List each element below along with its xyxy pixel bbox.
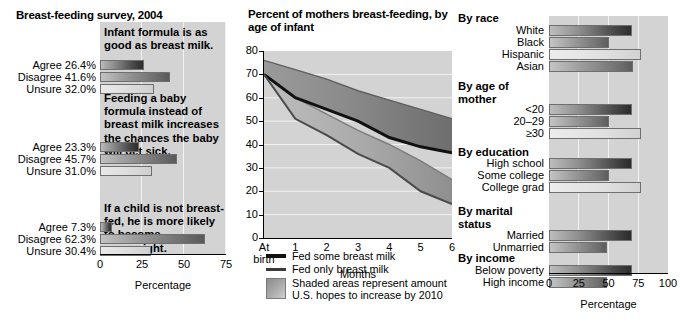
demographic-bar <box>549 170 609 181</box>
demographic-group-title: By income <box>458 252 544 265</box>
x-tick-label: 0 <box>534 277 564 289</box>
left-x-axis-line <box>100 254 226 255</box>
survey-row-label: Disagree 45.7% <box>0 153 96 165</box>
demographic-group-title: By maritalstatus <box>458 205 544 230</box>
y-tick-label: 20 <box>232 184 258 196</box>
y-tick-label: 70 <box>232 67 258 79</box>
demographic-bar <box>549 116 609 127</box>
center-panel-title: Percent of mothers breast-feeding, by ag… <box>248 8 456 34</box>
y-tick-label: 30 <box>232 161 258 173</box>
infographic-root: Breast-feeding survey, 2004 Infant formu… <box>0 0 680 331</box>
survey-bar <box>100 84 154 94</box>
y-tick-label: 80 <box>232 44 258 56</box>
demographic-row-label: High income <box>458 276 544 288</box>
demographic-row-label: <20 <box>458 103 544 115</box>
survey-statement: Infant formula is as good as breast milk… <box>104 26 226 52</box>
survey-row-label: Agree 26.4% <box>0 59 96 71</box>
y-tick-mark <box>259 238 263 239</box>
demographic-bar <box>549 37 609 48</box>
legend-label: Shaded areas represent amount U.S. hopes… <box>286 277 456 302</box>
survey-row-label: Unsure 30.4% <box>0 245 96 257</box>
y-tick-mark <box>259 51 263 52</box>
demographic-row-label: Asian <box>458 60 544 72</box>
y-tick-label: 50 <box>232 114 258 126</box>
left-survey-panel: Breast-feeding survey, 2004 Infant formu… <box>0 0 232 331</box>
x-tick-label: 0 <box>85 258 115 270</box>
demographic-row-label: Unmarried <box>458 241 544 253</box>
legend-swatch-line-thick-icon <box>266 254 286 258</box>
demographic-group-title: By age ofmother <box>458 80 544 105</box>
demographic-bar <box>549 49 641 60</box>
demographic-bar <box>549 158 632 169</box>
x-tick-label: 50 <box>169 258 199 270</box>
demographic-row-label: Hispanic <box>458 48 544 60</box>
y-tick-mark <box>259 121 263 122</box>
legend-swatch-line-thin-icon <box>266 268 286 271</box>
demographic-row-label: Married <box>458 229 544 241</box>
demographic-group-title: By race <box>458 12 544 25</box>
survey-bar <box>100 166 152 176</box>
demographic-bar <box>549 61 633 72</box>
x-tick-label: 50 <box>594 277 624 289</box>
survey-bar <box>100 154 177 164</box>
center-x-axis-line <box>263 238 452 239</box>
y-tick-label: 10 <box>232 208 258 220</box>
survey-row-label: Disagree 41.6% <box>0 71 96 83</box>
center-y-axis-line <box>263 51 264 238</box>
demographic-bar <box>549 25 632 36</box>
x-tick-label: 75 <box>623 277 653 289</box>
survey-bar <box>100 142 139 152</box>
center-line-chart-panel: Percent of mothers breast-feeding, by ag… <box>232 0 458 331</box>
demographic-bar <box>549 104 632 115</box>
legend-label: Fed only breast milk <box>286 263 389 275</box>
y-tick-label: 60 <box>232 91 258 103</box>
demographic-row-label: ≥30 <box>458 127 544 139</box>
legend-label: Fed some breast milk <box>286 250 395 262</box>
demographic-row-label: 20–29 <box>458 115 544 127</box>
survey-row-label: Agree 23.3% <box>0 141 96 153</box>
right-demographics-panel: By raceBy age ofmotherBy educationBy mar… <box>458 0 680 331</box>
survey-row-label: Unsure 31.0% <box>0 165 96 177</box>
center-legend: Fed some breast milkFed only breast milk… <box>266 250 456 303</box>
x-tick-label: 25 <box>127 258 157 270</box>
y-tick-label: 40 <box>232 138 258 150</box>
survey-bar <box>100 60 144 70</box>
x-tick-label: 100 <box>653 277 680 289</box>
survey-row-label: Unsure 32.0% <box>0 83 96 95</box>
demographic-row-label: High school <box>458 157 544 169</box>
demographic-bar <box>549 265 632 276</box>
center-chart-svg <box>264 51 452 238</box>
demographic-row-label: College grad <box>458 181 544 193</box>
y-tick-mark <box>259 215 263 216</box>
survey-bar <box>100 222 112 232</box>
y-tick-mark <box>259 191 263 192</box>
survey-row-label: Disagree 62.3% <box>0 233 96 245</box>
y-tick-mark <box>259 168 263 169</box>
left-x-axis-label: Percentage <box>100 279 226 291</box>
x-tick-label: 25 <box>564 277 594 289</box>
survey-row-label: Agree 7.3% <box>0 221 96 233</box>
demographic-row-label: White <box>458 24 544 36</box>
demographic-bar <box>549 182 641 193</box>
y-tick-mark <box>259 98 263 99</box>
demographic-row-label: Black <box>458 36 544 48</box>
legend-item: Shaded areas represent amount U.S. hopes… <box>266 277 456 302</box>
demographic-bar <box>549 230 632 241</box>
demographic-row-label: Some college <box>458 169 544 181</box>
demographic-bar <box>549 242 607 253</box>
right-x-axis-label: Percentage <box>549 298 668 310</box>
legend-swatch-shaded-box-icon <box>266 278 286 299</box>
center-plot-area <box>264 51 452 238</box>
survey-bar <box>100 72 170 82</box>
demographic-row-label: Below poverty <box>458 264 544 276</box>
demographic-bar <box>549 128 641 139</box>
legend-item: Fed some breast milk <box>266 250 456 262</box>
y-tick-mark <box>259 74 263 75</box>
legend-item: Fed only breast milk <box>266 263 456 275</box>
survey-bar <box>100 234 205 244</box>
right-x-axis-line <box>549 273 668 274</box>
y-tick-mark <box>259 145 263 146</box>
left-panel-title: Breast-feeding survey, 2004 <box>16 9 163 22</box>
